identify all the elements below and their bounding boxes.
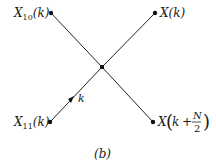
butterfly-diagram: X10(k) X(k) X11(k) X ( k + N 2 ) k (b) — [0, 0, 216, 168]
caption: (b) — [94, 147, 111, 161]
label-top-right: X(k) — [159, 6, 186, 20]
svg-text:): ) — [203, 111, 210, 132]
edge-top-left-to-center — [51, 13, 102, 67]
svg-text:N: N — [192, 110, 203, 121]
label-bottom-right: X ( k + N 2 ) — [157, 110, 210, 134]
branch-gain-label: k — [78, 92, 85, 105]
node-center — [100, 65, 104, 69]
node-top-right — [153, 11, 157, 15]
edge-bottom-left-to-center — [50, 67, 102, 122]
label-bottom-left: X11(k) — [13, 115, 50, 131]
edge-center-to-top-right — [102, 13, 155, 67]
svg-text:2: 2 — [194, 123, 200, 134]
svg-text:k: k — [172, 115, 179, 129]
edge-center-to-bottom-right — [102, 67, 153, 122]
node-top-left — [49, 11, 53, 15]
node-bottom-right — [151, 120, 155, 124]
svg-text:+: + — [182, 115, 192, 129]
label-top-left: X10(k) — [13, 6, 50, 22]
